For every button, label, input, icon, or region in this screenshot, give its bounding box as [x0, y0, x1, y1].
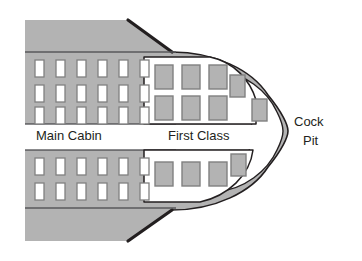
- seat-first[interactable]: [155, 96, 173, 120]
- seat-row: [155, 96, 227, 120]
- seat-main[interactable]: [56, 107, 65, 124]
- seat-main[interactable]: [98, 158, 107, 175]
- first-class-label: First Class: [168, 128, 230, 143]
- seat-main[interactable]: [77, 60, 86, 77]
- seat-main[interactable]: [119, 60, 128, 77]
- seat-main[interactable]: [56, 60, 65, 77]
- seat-first-offset[interactable]: [230, 75, 245, 97]
- seat-first-offset[interactable]: [252, 99, 267, 121]
- floor-plan-svg: Main Cabin First Class Cock Pit: [0, 0, 362, 261]
- seat-main[interactable]: [35, 60, 44, 77]
- seat-main[interactable]: [119, 85, 128, 102]
- cockpit-label-line2: Pit: [303, 133, 319, 148]
- seat-main[interactable]: [77, 85, 86, 102]
- seat-main[interactable]: [140, 183, 149, 200]
- seat-main[interactable]: [119, 158, 128, 175]
- seat-first[interactable]: [209, 65, 227, 89]
- seat-main[interactable]: [140, 107, 149, 124]
- seat-first[interactable]: [182, 65, 200, 89]
- seat-first[interactable]: [209, 96, 227, 120]
- seat-row: [155, 65, 227, 89]
- aircraft-cabin-diagram: Main Cabin First Class Cock Pit: [0, 0, 362, 261]
- seat-main[interactable]: [140, 85, 149, 102]
- seat-main[interactable]: [77, 158, 86, 175]
- seat-main[interactable]: [140, 60, 149, 77]
- seat-main[interactable]: [35, 107, 44, 124]
- seat-main[interactable]: [77, 183, 86, 200]
- main-cabin-label: Main Cabin: [36, 128, 102, 143]
- seat-first-offset[interactable]: [231, 154, 246, 176]
- seat-main[interactable]: [35, 183, 44, 200]
- seat-first[interactable]: [209, 162, 227, 186]
- seat-first[interactable]: [182, 162, 200, 186]
- seat-first[interactable]: [182, 96, 200, 120]
- seat-main[interactable]: [98, 107, 107, 124]
- seat-main[interactable]: [98, 60, 107, 77]
- seat-main[interactable]: [56, 158, 65, 175]
- seat-row: [155, 162, 227, 186]
- seat-main[interactable]: [98, 183, 107, 200]
- cockpit-label-line1: Cock: [294, 114, 324, 129]
- seat-main[interactable]: [119, 107, 128, 124]
- seat-main[interactable]: [77, 107, 86, 124]
- seat-first[interactable]: [155, 65, 173, 89]
- seat-main[interactable]: [35, 158, 44, 175]
- seat-main[interactable]: [35, 85, 44, 102]
- seat-main[interactable]: [119, 183, 128, 200]
- seat-main[interactable]: [56, 183, 65, 200]
- seat-first[interactable]: [155, 162, 173, 186]
- seat-main[interactable]: [56, 85, 65, 102]
- seat-main[interactable]: [98, 85, 107, 102]
- seat-main[interactable]: [140, 158, 149, 175]
